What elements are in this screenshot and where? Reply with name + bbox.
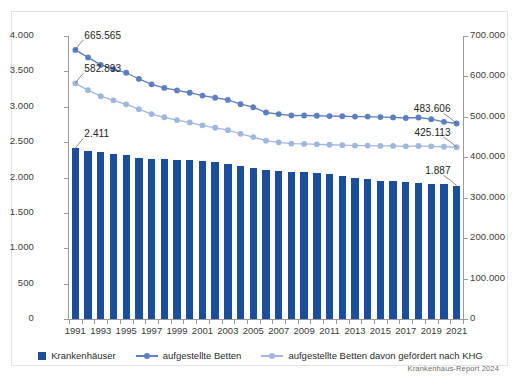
data-point <box>276 111 282 117</box>
left-tick-label: 3.000 <box>10 100 34 111</box>
x-tick-mark <box>183 320 184 324</box>
x-tick-mark <box>145 320 146 324</box>
data-point <box>85 55 91 61</box>
x-tick-mark <box>82 320 83 324</box>
value-label: 665.565 <box>84 30 121 41</box>
x-tick-label: 2015 <box>370 325 391 336</box>
x-tick-label: 2019 <box>421 325 442 336</box>
right-tick-mark <box>464 238 468 239</box>
data-point <box>441 119 447 125</box>
left-tick-mark <box>64 248 68 249</box>
data-point <box>250 134 256 140</box>
legend-line-swatch-light-icon <box>261 352 283 360</box>
data-point <box>416 115 422 121</box>
data-point <box>225 97 231 103</box>
legend-line-swatch-icon <box>136 352 158 360</box>
data-point <box>212 125 218 131</box>
right-tick-label: 200.000 <box>470 231 505 242</box>
data-point <box>72 80 78 86</box>
left-tick-label: 0 <box>29 312 34 323</box>
legend-bar-swatch-icon <box>38 352 46 360</box>
x-tick-mark <box>272 320 273 324</box>
x-tick-mark <box>260 320 261 324</box>
data-point <box>200 93 206 99</box>
value-label: 2.411 <box>84 128 109 139</box>
x-tick-mark <box>133 320 134 324</box>
data-point <box>136 76 142 82</box>
value-label: 1.887 <box>425 165 451 176</box>
left-tick-mark <box>64 71 68 72</box>
right-tick-mark <box>464 319 468 320</box>
left-tick-mark <box>64 319 68 320</box>
legend-label-krankenhaeuser: Krankenhäuser <box>51 350 115 361</box>
left-tick-label: 2.000 <box>10 171 34 182</box>
x-tick-label: 1993 <box>90 325 111 336</box>
right-axis-line <box>463 36 464 320</box>
left-tick-mark <box>64 36 68 37</box>
data-point <box>403 115 409 121</box>
x-tick-mark <box>438 320 439 324</box>
left-tick-label: 500 <box>18 277 34 288</box>
x-tick-mark <box>387 320 388 324</box>
x-tick-mark <box>158 320 159 324</box>
x-tick-label: 1997 <box>141 325 162 336</box>
x-tick-label: 1995 <box>116 325 137 336</box>
right-tick-mark <box>464 36 468 37</box>
x-tick-mark <box>425 320 426 324</box>
data-point <box>72 47 78 53</box>
data-point <box>111 97 117 103</box>
data-point <box>301 113 307 119</box>
x-tick-mark <box>171 320 172 324</box>
x-tick-mark <box>463 320 464 324</box>
x-tick-mark <box>298 320 299 324</box>
data-point <box>263 138 269 144</box>
data-point <box>327 113 333 119</box>
legend-item-gefoerdert-khg: aufgestellte Betten davon gefördert nach… <box>261 350 482 361</box>
data-point <box>314 113 320 119</box>
source-caption: Krankenhaus-Report 2024 <box>408 364 499 373</box>
x-tick-label: 2011 <box>319 325 339 336</box>
left-tick-mark <box>64 107 68 108</box>
right-tick-label: 500.000 <box>470 110 505 121</box>
x-tick-mark <box>323 320 324 324</box>
x-tick-label: 2007 <box>268 325 289 336</box>
right-tick-mark <box>464 117 468 118</box>
line-series-group <box>69 36 463 319</box>
x-tick-mark <box>349 320 350 324</box>
data-point <box>161 85 167 91</box>
data-point <box>250 104 256 110</box>
x-tick-label: 2017 <box>395 325 416 336</box>
value-label: 582.893 <box>84 63 121 74</box>
data-point <box>187 90 193 96</box>
right-tick-mark <box>464 279 468 280</box>
x-tick-mark <box>234 320 235 324</box>
x-tick-mark <box>310 320 311 324</box>
x-tick-mark <box>285 320 286 324</box>
x-tick-label: 2009 <box>294 325 315 336</box>
data-point <box>225 127 231 133</box>
left-tick-label: 3.500 <box>10 64 34 75</box>
data-point <box>365 143 371 149</box>
data-point <box>454 144 460 150</box>
chart-figure: 05001.0001.5002.0002.5003.0003.5004.000 … <box>0 0 521 385</box>
left-tick-label: 4.000 <box>10 29 34 40</box>
data-point <box>98 93 104 99</box>
x-tick-label: 1991 <box>65 325 86 336</box>
x-tick-label: 2005 <box>243 325 264 336</box>
right-tick-label: 600.000 <box>470 69 505 80</box>
x-tick-mark <box>222 320 223 324</box>
data-point <box>339 113 345 119</box>
data-point <box>263 110 269 116</box>
data-point <box>428 143 434 149</box>
left-tick-label: 1.000 <box>10 241 34 252</box>
left-tick-mark <box>64 213 68 214</box>
value-label: 483.606 <box>414 103 451 114</box>
data-point <box>161 114 167 120</box>
left-tick-label: 2.500 <box>10 135 34 146</box>
data-point <box>441 144 447 150</box>
data-point <box>352 143 358 149</box>
data-point <box>390 114 396 120</box>
right-tick-mark <box>464 198 468 199</box>
x-tick-mark <box>399 320 400 324</box>
x-tick-mark <box>412 320 413 324</box>
